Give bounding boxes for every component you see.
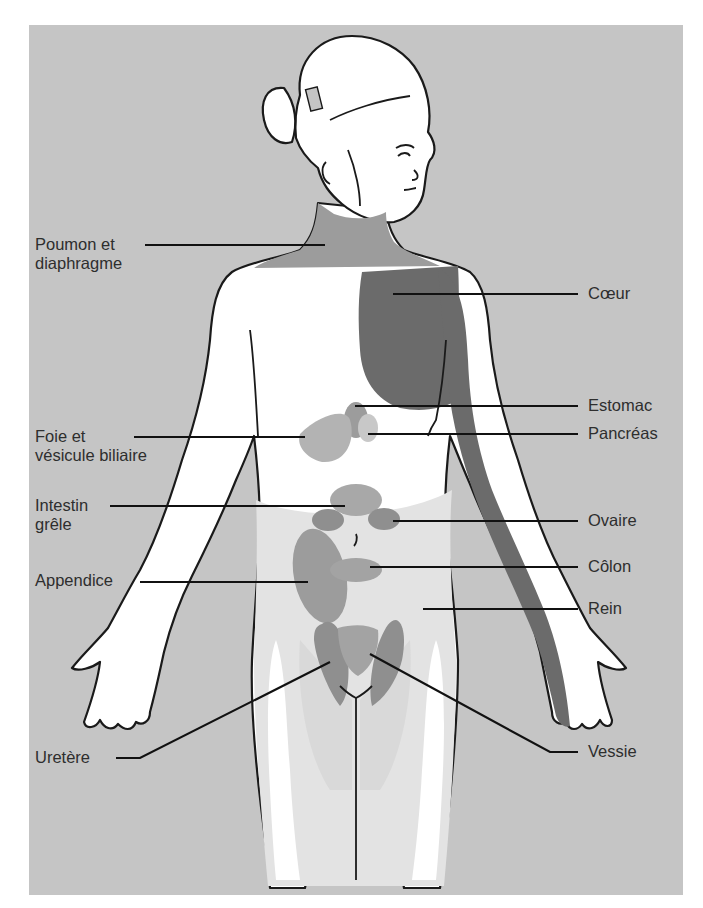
label-pancreas: Pancréas [588, 424, 658, 443]
label-poumon-diaphragme: Poumon et diaphragme [35, 235, 122, 273]
colon-zone [330, 558, 382, 582]
label-uretere: Uretère [35, 748, 90, 767]
label-ovaire: Ovaire [588, 511, 637, 530]
label-estomac: Estomac [588, 396, 652, 415]
label-intestin-grele: Intestin grêle [35, 496, 88, 534]
label-colon: Côlon [588, 557, 631, 576]
ovary-zone-left [312, 509, 344, 531]
label-vessie: Vessie [588, 742, 637, 761]
label-foie-vesicule: Foie et vésicule biliaire [35, 427, 147, 465]
ovary-zone-right [368, 508, 400, 530]
label-appendice: Appendice [35, 571, 113, 590]
label-coeur: Cœur [588, 284, 630, 303]
pancreas-zone [358, 414, 378, 442]
label-rein: Rein [588, 599, 622, 618]
